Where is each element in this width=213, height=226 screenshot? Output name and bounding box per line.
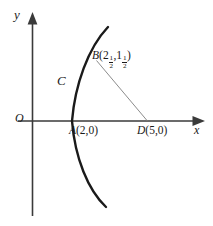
point-a-name: A bbox=[69, 124, 76, 136]
point-b-close-paren: ) bbox=[127, 49, 131, 61]
origin-label: O bbox=[15, 112, 24, 124]
point-d-coords: (5,0) bbox=[145, 124, 167, 136]
y-axis-label: y bbox=[14, 8, 20, 21]
math-figure: y x O C A(2,0) D(5,0) B(212,112) bbox=[0, 0, 213, 226]
point-label-a: A(2,0) bbox=[69, 125, 98, 137]
figure-canvas bbox=[0, 0, 213, 226]
point-label-d: D(5,0) bbox=[137, 125, 167, 137]
point-b-y-whole: 1 bbox=[116, 49, 122, 61]
point-label-b: B(212,112) bbox=[92, 50, 131, 71]
point-b-x-denominator: 2 bbox=[109, 63, 114, 70]
point-b-y-denominator: 2 bbox=[122, 63, 127, 70]
y-axis-arrowhead bbox=[28, 12, 38, 25]
point-b-name: B bbox=[92, 49, 99, 61]
point-b-x-whole: 2 bbox=[103, 49, 109, 61]
x-axis-label: x bbox=[194, 124, 199, 136]
point-a-coords: (2,0) bbox=[76, 124, 98, 136]
curve-label-c: C bbox=[57, 74, 66, 87]
